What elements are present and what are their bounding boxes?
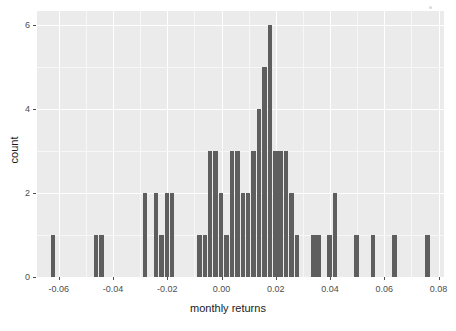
x-tick-mark	[222, 277, 223, 280]
x-tick-label: -0.02	[157, 284, 178, 294]
y-tick-label: 2	[20, 188, 30, 198]
histogram-bar	[316, 235, 321, 277]
histogram-bar	[154, 193, 159, 277]
x-tick-mark	[330, 277, 331, 280]
plot-panel	[37, 11, 444, 277]
histogram-bar	[230, 151, 235, 277]
histogram-bar	[235, 151, 240, 277]
x-tick-mark	[113, 277, 114, 280]
x-tick-label: -0.06	[48, 284, 69, 294]
histogram-bar	[354, 235, 359, 277]
histogram-bar	[311, 235, 316, 277]
histogram-bar	[203, 235, 208, 277]
histogram-bar	[289, 193, 294, 277]
histogram-bar	[219, 193, 224, 277]
histogram-bar	[273, 151, 278, 277]
histogram-bar	[213, 151, 218, 277]
histogram-bar	[251, 151, 256, 277]
x-tick-mark	[167, 277, 168, 280]
y-tick-label: 0	[20, 272, 30, 282]
x-axis-label: monthly returns	[0, 302, 456, 314]
histogram-bar	[208, 151, 213, 277]
histogram-bar	[284, 151, 289, 277]
histogram-bar	[327, 235, 332, 277]
chart-root: -0.06-0.04-0.020.000.020.040.060.08 0246…	[0, 0, 456, 331]
x-tick-label: 0.08	[430, 284, 448, 294]
histogram-bar	[295, 235, 300, 277]
histogram-bar	[392, 235, 397, 277]
histogram-bar	[51, 235, 56, 277]
histogram-bar	[241, 193, 246, 277]
x-tick-mark	[439, 277, 440, 280]
x-tick-label: -0.04	[103, 284, 124, 294]
histogram-bar	[262, 67, 267, 277]
x-tick-label: 0.02	[267, 284, 285, 294]
y-tick-mark	[33, 109, 36, 110]
x-tick-label: 0.06	[376, 284, 394, 294]
histogram-bar	[159, 235, 164, 277]
histogram-bar	[165, 193, 170, 277]
x-tick-label: 0.04	[321, 284, 339, 294]
histogram-bar	[197, 235, 202, 277]
x-tick-mark	[59, 277, 60, 280]
histogram-bar	[333, 193, 338, 277]
corner-artifact-icon	[429, 6, 432, 9]
histogram-bar	[143, 193, 148, 277]
y-tick-mark	[33, 25, 36, 26]
histogram-bar	[224, 235, 229, 277]
histogram-bar	[278, 151, 283, 277]
histogram-bar	[94, 235, 99, 277]
y-tick-mark	[33, 193, 36, 194]
y-tick-label: 4	[20, 104, 30, 114]
x-tick-label: 0.00	[213, 284, 231, 294]
histogram-bar	[371, 235, 376, 277]
histogram-bar	[170, 193, 175, 277]
y-tick-label: 6	[20, 20, 30, 30]
histogram-bar	[425, 235, 430, 277]
y-tick-mark	[33, 277, 36, 278]
histogram-bar	[257, 109, 262, 277]
x-tick-mark	[384, 277, 385, 280]
histogram-bar	[99, 235, 104, 277]
histogram-bars	[37, 11, 444, 277]
histogram-bar	[268, 25, 273, 277]
histogram-bar	[246, 193, 251, 277]
x-tick-mark	[276, 277, 277, 280]
y-axis-label: count	[8, 110, 20, 190]
